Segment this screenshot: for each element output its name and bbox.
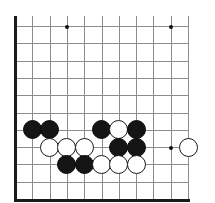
white-stone[interactable] (92, 155, 111, 174)
grid-line-vertical (188, 16, 189, 199)
board-edge-bottom (14, 199, 190, 202)
black-stone[interactable] (40, 120, 59, 139)
grid-line-vertical (50, 16, 51, 199)
black-stone[interactable] (75, 155, 94, 174)
white-stone[interactable] (109, 155, 128, 174)
black-stone[interactable] (23, 120, 42, 139)
white-stone[interactable] (57, 138, 76, 157)
white-stone[interactable] (127, 155, 146, 174)
grid-line-vertical (32, 16, 33, 199)
star-point (169, 25, 173, 29)
black-stone[interactable] (109, 138, 128, 157)
black-stone[interactable] (127, 138, 146, 157)
star-point (65, 25, 69, 29)
black-stone[interactable] (127, 120, 146, 139)
go-diagram (0, 0, 215, 203)
white-stone[interactable] (75, 138, 94, 157)
board-edge-left (14, 16, 17, 201)
black-stone[interactable] (92, 120, 111, 139)
grid-line-vertical (153, 16, 154, 199)
white-stone[interactable] (40, 138, 59, 157)
white-stone[interactable] (109, 120, 128, 139)
black-stone[interactable] (57, 155, 76, 174)
star-point (169, 146, 173, 150)
white-stone[interactable] (179, 138, 198, 157)
go-board[interactable] (0, 0, 215, 203)
grid-line-vertical (171, 16, 172, 199)
